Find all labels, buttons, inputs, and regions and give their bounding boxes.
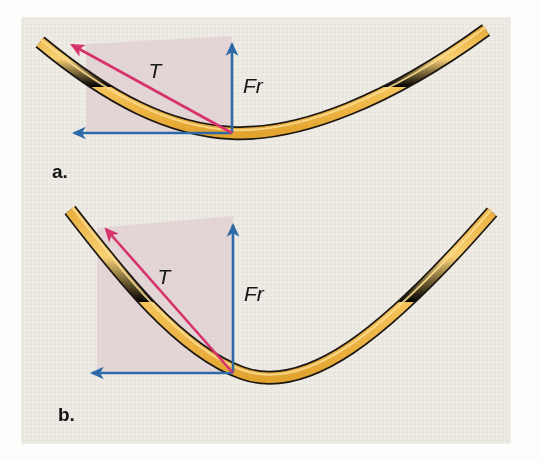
panel-a-label: a. — [52, 161, 68, 182]
figure-root: T Fr a. T Fr b. — [0, 0, 540, 461]
tension-label-b: T — [158, 265, 173, 288]
resultant-force-label-a: Fr — [243, 74, 264, 97]
resultant-force-label-b: Fr — [244, 282, 265, 305]
tension-label-a: T — [149, 59, 164, 82]
panel-b-label: b. — [58, 404, 75, 425]
force-diagram-svg: T Fr a. T Fr b. — [0, 0, 540, 461]
